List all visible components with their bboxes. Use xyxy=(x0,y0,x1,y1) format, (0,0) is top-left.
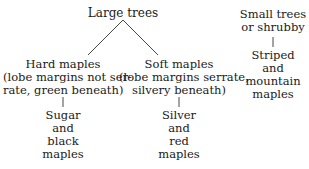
hard-maples-node: Hard maples (lobe margins not ser- rate,… xyxy=(3,58,123,97)
hard-maples-leaf: Sugar and black maples xyxy=(33,109,93,161)
small-trees-leaf: Striped and mountain maples xyxy=(238,49,308,101)
root-label: Large trees xyxy=(83,7,163,20)
leaf-line: maples xyxy=(238,88,308,101)
small-trees-node: Small trees or shrubby xyxy=(238,8,308,34)
soft-maples-leaf: Silver and red maples xyxy=(149,109,209,161)
root-node: Large trees xyxy=(83,7,163,20)
soft-maples-node: Soft maples (lobe margins serrate, silve… xyxy=(119,58,239,97)
leaf-line: maples xyxy=(33,148,93,161)
hard-maples-desc-2: rate, green beneath) xyxy=(3,84,123,97)
leaf-line: maples xyxy=(149,148,209,161)
soft-maples-desc-2: silvery beneath) xyxy=(119,84,239,97)
small-trees-line-2: or shrubby xyxy=(238,21,308,34)
